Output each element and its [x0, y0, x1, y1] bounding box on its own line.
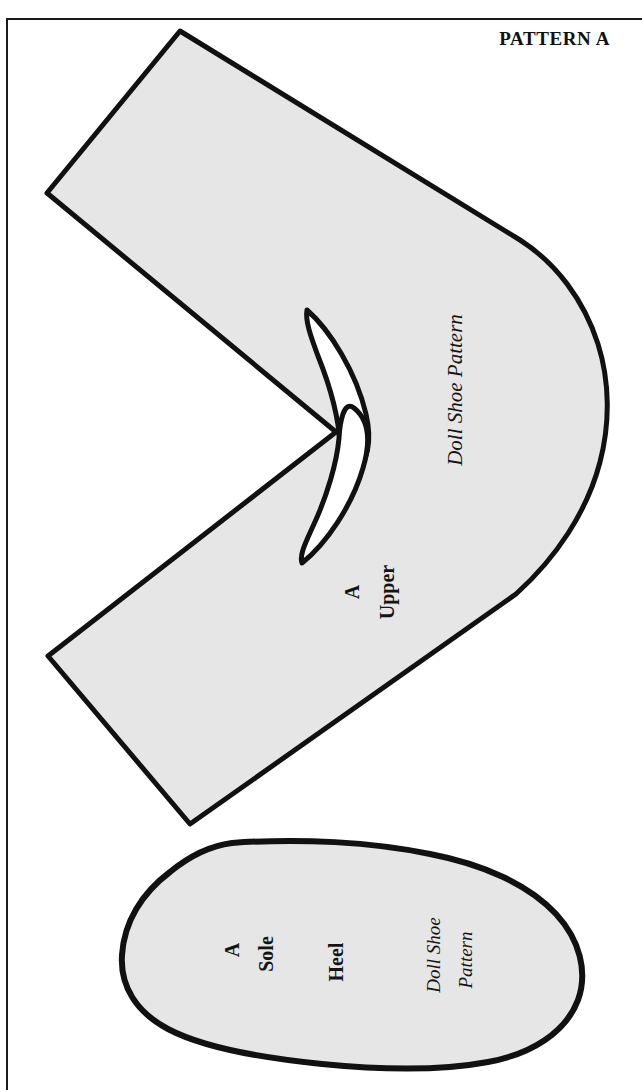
shoe-upper-pattern-shape: [47, 31, 607, 824]
upper-credit-label: Doll Shoe Pattern: [443, 314, 468, 466]
pattern-piece-upper: [47, 31, 607, 824]
pattern-sheet: PATTERN A Doll Shoe Pattern A Upper A So…: [0, 0, 642, 1090]
sole-part-label: Sole: [255, 936, 278, 972]
upper-part-label: Upper: [376, 565, 399, 619]
pattern-piece-sole: [122, 841, 582, 1069]
upper-size-label: A: [341, 585, 364, 599]
sole-heel-label: Heel: [325, 943, 348, 982]
shoe-sole-pattern-shape: [122, 841, 582, 1069]
sole-size-label: A: [221, 943, 244, 957]
pattern-artwork: [0, 0, 642, 1090]
sole-credit-label-line2: Pattern: [455, 932, 477, 989]
sole-credit-label-line1: Doll Shoe: [423, 917, 445, 992]
